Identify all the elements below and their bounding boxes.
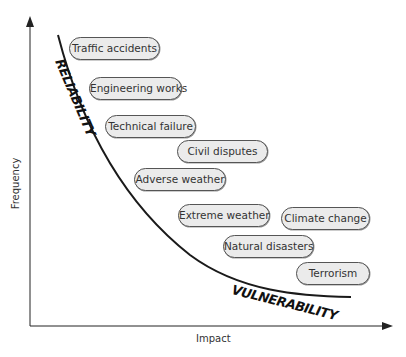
risk-curve xyxy=(58,35,351,297)
risk-item-engineering-works: Engineering works xyxy=(89,77,182,100)
risk-item-technical-failure: Technical failure xyxy=(105,115,196,138)
risk-item-natural-disasters: Natural disasters xyxy=(223,235,314,258)
risk-item-extreme-weather: Extreme weather xyxy=(178,204,270,227)
x-axis-arrow-icon xyxy=(382,322,393,330)
risk-item-climate-change: Climate change xyxy=(281,207,370,230)
risk-item-traffic-accidents: Traffic accidents xyxy=(69,37,160,60)
y-axis-label: Frequency xyxy=(10,154,21,214)
y-axis-arrow-icon xyxy=(26,16,34,27)
risk-item-adverse-weather: Adverse weather xyxy=(134,168,226,191)
x-axis-label: Impact xyxy=(196,333,231,344)
risk-diagram: Frequency Impact RELIABILITY VULNERABILI… xyxy=(0,0,406,357)
risk-item-civil-disputes: Civil disputes xyxy=(177,140,268,163)
risk-item-terrorism: Terrorism xyxy=(296,262,370,285)
